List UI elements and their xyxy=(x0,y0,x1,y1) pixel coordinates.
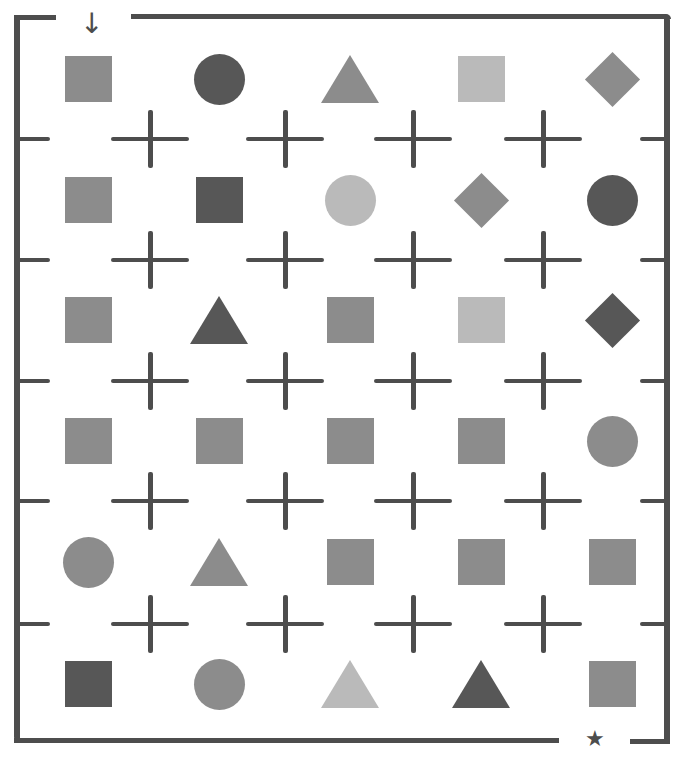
medium-square-icon xyxy=(589,661,636,707)
grid-cell[interactable] xyxy=(320,49,380,109)
medium-square-icon xyxy=(327,539,374,585)
wall-stub-left xyxy=(18,258,50,262)
medium-square-icon xyxy=(458,539,505,585)
grid-cell[interactable] xyxy=(320,532,380,592)
wall-post xyxy=(111,472,189,530)
grid-cell[interactable] xyxy=(320,290,380,350)
grid-cell[interactable] xyxy=(582,290,642,350)
wall-post xyxy=(246,352,324,410)
wall-post xyxy=(246,231,324,289)
wall-post xyxy=(111,595,189,653)
medium-square-icon xyxy=(65,56,112,102)
medium-square-icon xyxy=(196,418,243,464)
medium-triangle-icon xyxy=(190,538,248,586)
medium-square-icon xyxy=(327,297,374,343)
medium-diamond-icon xyxy=(453,172,508,227)
wall-post xyxy=(504,110,582,168)
grid-cell[interactable] xyxy=(582,170,642,230)
dark-triangle-icon xyxy=(190,296,248,344)
grid-cell[interactable] xyxy=(189,654,249,714)
dark-square-icon xyxy=(65,661,112,707)
grid-cell[interactable] xyxy=(451,411,511,471)
wall-post xyxy=(111,231,189,289)
medium-circle-icon xyxy=(63,537,114,588)
medium-square-icon xyxy=(65,297,112,343)
grid-cell[interactable] xyxy=(58,411,118,471)
grid-cell[interactable] xyxy=(58,290,118,350)
border-bottom-left xyxy=(14,738,559,743)
dark-square-icon xyxy=(196,177,243,223)
border-bottom-right xyxy=(630,739,670,744)
grid-cell[interactable] xyxy=(320,654,380,714)
wall-stub-right xyxy=(640,258,668,262)
border-top-left xyxy=(14,15,56,20)
wall-stub-left xyxy=(18,622,50,626)
grid-cell[interactable] xyxy=(189,532,249,592)
grid-cell[interactable] xyxy=(320,170,380,230)
grid-cell[interactable] xyxy=(582,654,642,714)
light-triangle-icon xyxy=(321,660,379,708)
grid-cell[interactable] xyxy=(320,411,380,471)
grid-cell[interactable] xyxy=(189,290,249,350)
wall-post xyxy=(246,110,324,168)
wall-stub-left xyxy=(18,499,50,503)
wall-post xyxy=(111,352,189,410)
grid-cell[interactable] xyxy=(582,532,642,592)
grid-cell[interactable] xyxy=(451,654,511,714)
grid-cell[interactable] xyxy=(451,532,511,592)
finish-star-icon: ★ xyxy=(585,728,605,750)
dark-circle-icon xyxy=(587,175,638,226)
maze-board: ↓ ★ xyxy=(0,0,691,759)
medium-square-icon xyxy=(589,539,636,585)
wall-stub-right xyxy=(640,622,668,626)
medium-square-icon xyxy=(65,418,112,464)
wall-post xyxy=(374,595,452,653)
grid-cell[interactable] xyxy=(189,411,249,471)
wall-stub-right xyxy=(640,499,668,503)
wall-post xyxy=(374,352,452,410)
medium-square-icon xyxy=(458,418,505,464)
medium-diamond-icon xyxy=(584,51,639,106)
grid-cell[interactable] xyxy=(451,49,511,109)
medium-triangle-icon xyxy=(321,55,379,103)
border-top-right xyxy=(131,14,671,19)
wall-stub-right xyxy=(640,379,668,383)
wall-stub-left xyxy=(18,137,50,141)
medium-circle-icon xyxy=(587,416,638,467)
grid-cell[interactable] xyxy=(451,290,511,350)
light-square-icon xyxy=(458,297,505,343)
wall-post xyxy=(246,472,324,530)
wall-post xyxy=(374,110,452,168)
wall-post xyxy=(374,472,452,530)
wall-stub-right xyxy=(640,137,668,141)
start-arrow-icon: ↓ xyxy=(80,10,103,38)
dark-diamond-icon xyxy=(584,292,639,347)
wall-post xyxy=(504,472,582,530)
grid-cell[interactable] xyxy=(58,170,118,230)
wall-post xyxy=(504,231,582,289)
wall-post xyxy=(246,595,324,653)
grid-cell[interactable] xyxy=(58,654,118,714)
grid-cell[interactable] xyxy=(582,411,642,471)
grid-cell[interactable] xyxy=(451,170,511,230)
wall-post xyxy=(504,595,582,653)
grid-cell[interactable] xyxy=(58,532,118,592)
grid-cell[interactable] xyxy=(189,170,249,230)
light-square-icon xyxy=(458,56,505,102)
medium-circle-icon xyxy=(194,659,245,710)
wall-post xyxy=(111,110,189,168)
wall-post xyxy=(374,231,452,289)
medium-square-icon xyxy=(65,177,112,223)
grid-cell[interactable] xyxy=(189,49,249,109)
dark-circle-icon xyxy=(194,54,245,105)
wall-stub-left xyxy=(18,379,50,383)
medium-square-icon xyxy=(327,418,374,464)
dark-triangle-icon xyxy=(452,660,510,708)
wall-post xyxy=(504,352,582,410)
light-circle-icon xyxy=(325,175,376,226)
grid-cell[interactable] xyxy=(582,49,642,109)
grid-cell[interactable] xyxy=(58,49,118,109)
